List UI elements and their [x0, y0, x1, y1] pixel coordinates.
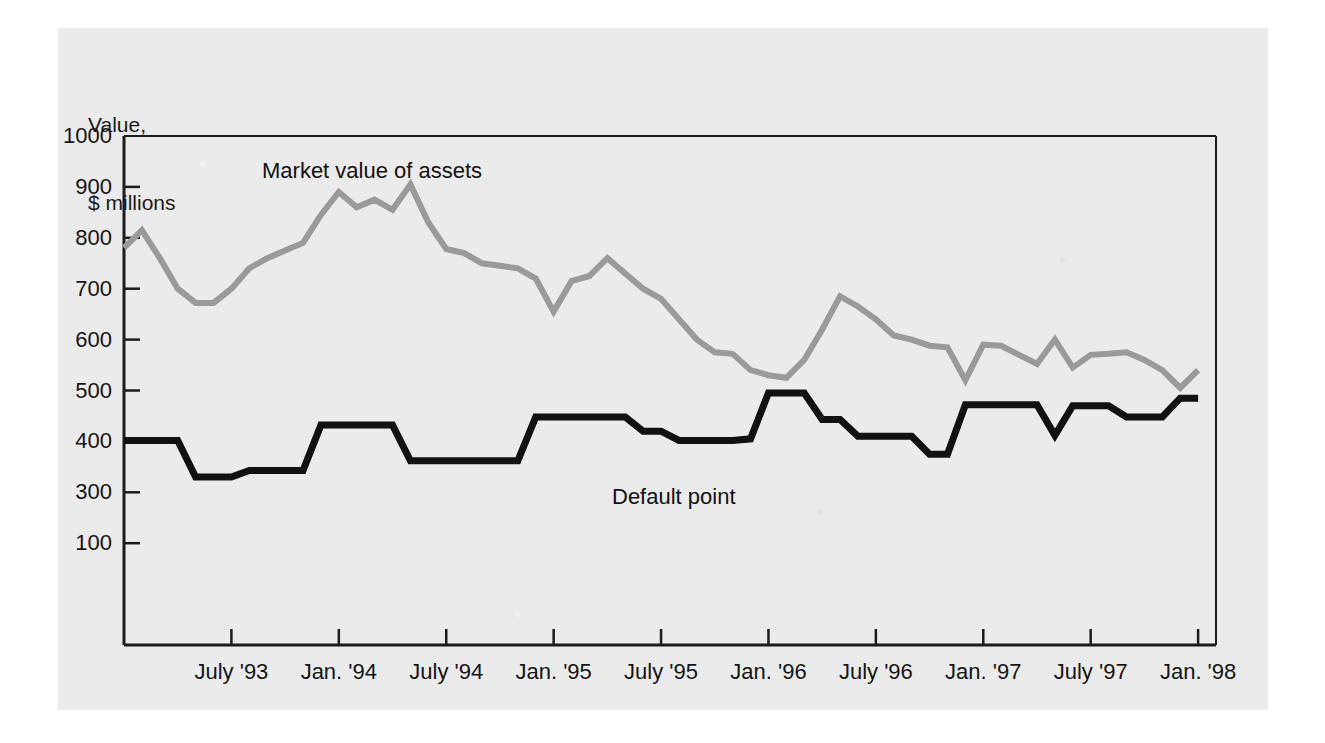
x-tick-label-july--96: July '96	[839, 659, 913, 685]
y-tick-label-1000: 1000	[48, 123, 112, 149]
chart-plot	[0, 0, 1325, 743]
x-tick-label-july--97: July '97	[1054, 659, 1128, 685]
x-tick-label-jan---94: Jan. '94	[301, 659, 377, 685]
x-tick-label-july--95: July '95	[624, 659, 698, 685]
x-tick-label-july--94: July '94	[409, 659, 483, 685]
y-tick-label-400: 400	[48, 428, 112, 454]
tick-marks	[124, 187, 1198, 645]
x-tick-label-july--93: July '93	[194, 659, 268, 685]
y-tick-label-100: 100	[48, 530, 112, 556]
figure-root: Value, $ millions Market value of assets…	[0, 0, 1325, 743]
series-lines	[124, 184, 1198, 477]
series-default-point	[124, 393, 1198, 477]
y-tick-label-600: 600	[48, 327, 112, 353]
x-tick-label-jan---96: Jan. '96	[730, 659, 806, 685]
x-tick-label-jan---97: Jan. '97	[945, 659, 1021, 685]
x-tick-label-jan---95: Jan. '95	[515, 659, 591, 685]
y-tick-label-700: 700	[48, 276, 112, 302]
y-tick-label-800: 800	[48, 225, 112, 251]
y-tick-label-300: 300	[48, 479, 112, 505]
series-market-value-of-assets	[124, 184, 1198, 388]
y-tick-label-900: 900	[48, 174, 112, 200]
y-tick-label-500: 500	[48, 378, 112, 404]
x-tick-label-jan---98: Jan. '98	[1160, 659, 1236, 685]
axis-lines	[124, 136, 1216, 645]
